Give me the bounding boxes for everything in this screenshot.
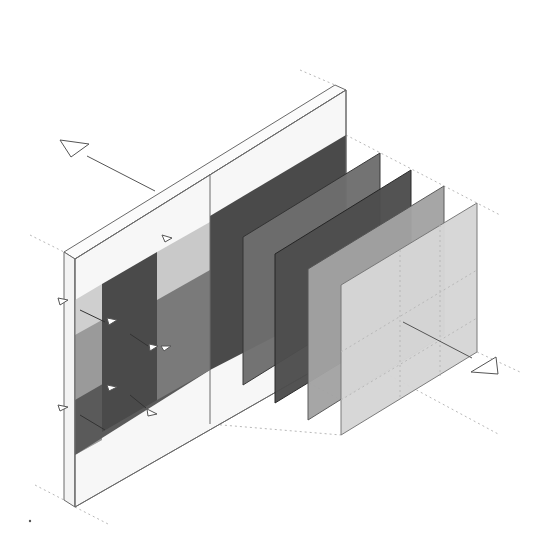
section-arrow-left-icon bbox=[60, 140, 89, 157]
wall-side-face bbox=[64, 252, 75, 507]
section-line-left bbox=[87, 156, 155, 191]
layer-diagram bbox=[0, 0, 539, 545]
diagram-canvas bbox=[0, 0, 539, 545]
corner-dot bbox=[29, 520, 31, 522]
section-arrow-right-icon bbox=[471, 357, 498, 374]
